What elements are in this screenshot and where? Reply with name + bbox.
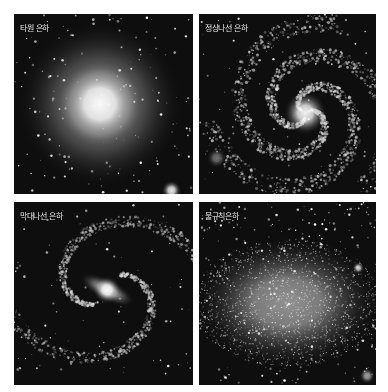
elliptical-galaxy-panel: 타원 은하 (14, 14, 193, 194)
spiral-galaxy-panel: 정상나선 은하 (199, 14, 376, 194)
elliptical-galaxy-image (14, 14, 193, 194)
irregular-galaxy-panel: 불규칙은하 (199, 202, 376, 385)
barred-spiral-galaxy-label: 막대나선 은하 (20, 210, 62, 221)
elliptical-galaxy-label: 타원 은하 (20, 22, 49, 33)
irregular-galaxy-label: 불규칙은하 (205, 210, 239, 221)
spiral-galaxy-label: 정상나선 은하 (205, 22, 247, 33)
barred-spiral-galaxy-image (14, 202, 193, 385)
spiral-galaxy-image (199, 14, 376, 194)
irregular-galaxy-image (199, 202, 376, 385)
barred-spiral-galaxy-panel: 막대나선 은하 (14, 202, 193, 385)
